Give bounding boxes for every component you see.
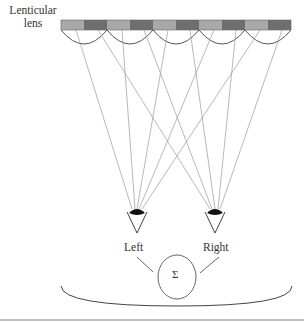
lens-label-line1: Lenticular	[6, 4, 60, 17]
rays-left	[76, 30, 260, 209]
sigma-symbol: Σ	[172, 268, 178, 281]
lenticular-diagram: Lenticular lens Left Right Σ	[0, 0, 304, 322]
right-eye-icon	[205, 209, 225, 233]
rays-right	[98, 30, 282, 209]
diagram-canvas	[0, 0, 304, 322]
pixel-strip	[61, 20, 291, 30]
left-eye-label: Left	[124, 241, 143, 254]
lenslets	[61, 30, 291, 44]
left-eye-icon	[127, 209, 147, 233]
brain-arc	[61, 286, 292, 306]
right-eye-label: Right	[203, 241, 229, 254]
lenticular-lens-label: Lenticular lens	[6, 4, 60, 30]
lens-label-line2: lens	[6, 17, 60, 30]
